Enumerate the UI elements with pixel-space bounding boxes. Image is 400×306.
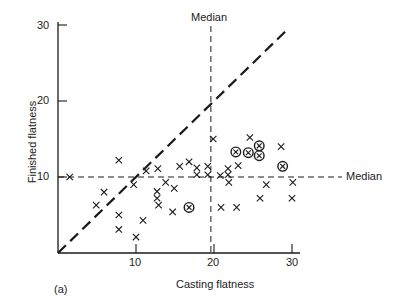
- x-tick-30: 30: [286, 256, 298, 268]
- cross-marker: [169, 209, 175, 215]
- scatter-plot: [0, 0, 400, 306]
- equality-line: [58, 29, 288, 253]
- circled-cross-marker: [254, 151, 264, 161]
- x-axis-label: Casting flatness: [176, 278, 254, 290]
- cross-marker: [154, 195, 160, 201]
- cross-marker: [263, 181, 269, 187]
- cross-marker: [162, 179, 168, 185]
- cross-marker: [116, 212, 122, 218]
- circled-cross-marker: [244, 148, 254, 158]
- cross-marker: [194, 172, 200, 178]
- x-tick-10: 10: [129, 256, 141, 268]
- data-points: [67, 134, 296, 240]
- cross-marker: [205, 172, 211, 178]
- circled-cross-marker: [184, 203, 194, 213]
- axes: [58, 22, 300, 253]
- cross-marker: [186, 159, 192, 165]
- circled-cross-marker: [254, 141, 264, 151]
- cross-marker: [171, 185, 177, 191]
- cross-marker: [205, 163, 211, 169]
- cross-marker: [233, 204, 239, 210]
- y-tick-10: 10: [37, 170, 49, 182]
- cross-marker: [235, 162, 241, 168]
- median-label-top: Median: [191, 11, 227, 23]
- cross-marker: [116, 226, 122, 232]
- x-tick-20: 20: [207, 256, 219, 268]
- cross-marker: [155, 165, 161, 171]
- cross-marker: [278, 143, 284, 149]
- cross-marker: [257, 195, 263, 201]
- cross-marker: [226, 179, 232, 185]
- y-axis-label: Finished flatness: [26, 92, 38, 192]
- cross-marker: [194, 165, 200, 171]
- y-tick-20: 20: [37, 94, 49, 106]
- reference-lines: [58, 26, 342, 253]
- cross-marker: [143, 168, 149, 174]
- cross-marker: [217, 172, 223, 178]
- cross-marker: [93, 202, 99, 208]
- cross-marker: [154, 188, 160, 194]
- cross-marker: [140, 217, 146, 223]
- cross-marker: [225, 165, 231, 171]
- cross-marker: [101, 189, 107, 195]
- cross-marker: [116, 157, 122, 163]
- y-tick-30: 30: [37, 19, 49, 31]
- cross-marker: [290, 179, 296, 185]
- cross-marker: [133, 234, 139, 240]
- cross-marker: [289, 195, 295, 201]
- cross-marker: [176, 163, 182, 169]
- panel-label: (a): [54, 283, 67, 295]
- circled-cross-marker: [278, 162, 288, 172]
- cross-marker: [218, 204, 224, 210]
- cross-marker: [130, 181, 136, 187]
- circled-cross-marker: [231, 147, 241, 157]
- cross-marker: [155, 202, 161, 208]
- cross-marker: [247, 134, 253, 140]
- median-label-right: Median: [346, 170, 382, 182]
